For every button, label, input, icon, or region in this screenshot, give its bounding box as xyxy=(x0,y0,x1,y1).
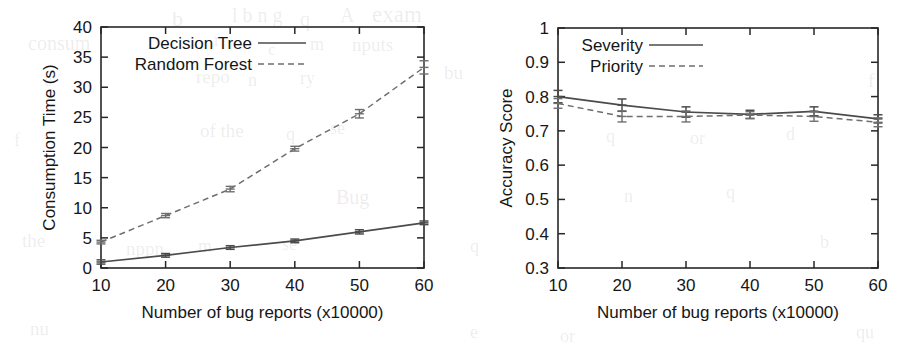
x-tick-label: 60 xyxy=(415,276,434,295)
error-bar xyxy=(618,111,627,122)
error-bar xyxy=(810,112,819,122)
error-bar xyxy=(226,246,235,250)
y-tick-label: 10 xyxy=(73,199,92,218)
x-tick-label: 50 xyxy=(805,276,824,295)
y-tick-label: 35 xyxy=(73,48,92,67)
x-tick-label: 60 xyxy=(869,276,888,295)
error-bar xyxy=(746,112,755,119)
y-tick-label: 0.9 xyxy=(525,53,549,72)
legend-label: Random Forest xyxy=(135,55,252,74)
error-bar xyxy=(420,61,429,74)
error-bar xyxy=(554,99,563,109)
x-axis-title: Number of bug reports (x10000) xyxy=(142,303,384,322)
error-bar xyxy=(97,240,106,244)
accuracy-score-plot: 0.30.40.50.60.70.80.91102030405060Number… xyxy=(453,0,906,344)
chart-panel-consumption-time: 0510152025303540102030405060Number of bu… xyxy=(0,0,453,344)
x-tick-label: 40 xyxy=(285,276,304,295)
y-tick-label: 30 xyxy=(73,78,92,97)
legend-label: Severity xyxy=(582,36,644,55)
x-tick-label: 10 xyxy=(549,276,568,295)
y-tick-label: 0.4 xyxy=(525,225,549,244)
figure-container: bl b n gqAexamconsumrcmnputsrepoenrybufo… xyxy=(0,0,907,344)
y-tick-label: 0.8 xyxy=(525,88,549,107)
y-tick-label: 0.7 xyxy=(525,122,549,141)
y-axis-title: Accuracy Score xyxy=(497,88,516,207)
x-tick-label: 50 xyxy=(350,276,369,295)
x-tick-label: 40 xyxy=(741,276,760,295)
error-bar xyxy=(355,230,364,234)
x-axis-title: Number of bug reports (x10000) xyxy=(597,303,839,322)
y-tick-label: 20 xyxy=(73,139,92,158)
x-tick-label: 30 xyxy=(221,276,240,295)
error-bar xyxy=(420,221,429,225)
error-bar xyxy=(161,213,170,217)
x-tick-label: 10 xyxy=(92,276,111,295)
y-tick-label: 1 xyxy=(540,19,549,38)
y-tick-label: 5 xyxy=(83,229,92,248)
error-bar xyxy=(161,254,170,258)
consumption-time-plot: 0510152025303540102030405060Number of bu… xyxy=(0,0,453,344)
x-tick-label: 30 xyxy=(677,276,696,295)
series-line xyxy=(101,223,424,262)
error-bar xyxy=(97,260,106,264)
legend-label: Decision Tree xyxy=(148,34,252,53)
error-bar xyxy=(618,99,627,111)
x-tick-label: 20 xyxy=(156,276,175,295)
y-axis-title: Consumption Time (s) xyxy=(40,64,59,230)
y-tick-label: 25 xyxy=(73,108,92,127)
y-tick-label: 0.6 xyxy=(525,156,549,175)
error-bar xyxy=(290,239,299,243)
y-tick-label: 0.3 xyxy=(525,259,549,278)
chart-panel-accuracy-score: 0.30.40.50.60.70.80.91102030405060Number… xyxy=(453,0,906,344)
x-tick-label: 20 xyxy=(613,276,632,295)
y-tick-label: 0.5 xyxy=(525,190,549,209)
y-tick-label: 15 xyxy=(73,169,92,188)
series-line xyxy=(101,67,424,242)
legend-label: Priority xyxy=(590,57,643,76)
y-tick-label: 40 xyxy=(73,18,92,37)
